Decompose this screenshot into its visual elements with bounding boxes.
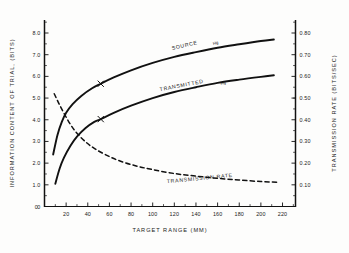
x-axis-ticks bbox=[55, 203, 293, 207]
marker-x bbox=[98, 81, 104, 87]
y2-tick-label: 0.80 bbox=[300, 30, 311, 36]
y-axis-left-tick-labels: 01.02.03.04.05.06.07.08.0 bbox=[33, 30, 41, 209]
y-tick-label: 3.0 bbox=[33, 138, 41, 144]
curve-sublabel-source-hg: Hg bbox=[212, 40, 219, 46]
y2-tick-label: 0.40 bbox=[300, 117, 311, 123]
x-tick-label: 20 bbox=[63, 211, 69, 217]
x-tick-label: 80 bbox=[128, 211, 134, 217]
y2-tick-label: 0.60 bbox=[300, 73, 311, 79]
y-tick-label: 8.0 bbox=[33, 30, 41, 36]
x-tick-label: 160 bbox=[213, 211, 222, 217]
chart-canvas: 01.02.03.04.05.06.07.08.0 0.100.200.300.… bbox=[0, 0, 349, 253]
y-tick-label: 5.0 bbox=[33, 95, 41, 101]
y-tick-label: 4.0 bbox=[33, 117, 41, 123]
y-tick-label: 6.0 bbox=[33, 73, 41, 79]
figure-container: 01.02.03.04.05.06.07.08.0 0.100.200.300.… bbox=[0, 0, 349, 253]
curve-label-source-hg: SOURCE bbox=[171, 39, 198, 51]
y2-tick-label: 0.70 bbox=[300, 52, 311, 58]
x-tick-label: 60 bbox=[106, 211, 112, 217]
x-axis-origin-label: 0 bbox=[35, 204, 38, 210]
curve-labels: SOURCEHgTRANSMITTEDHgTRANSMISSION RATE bbox=[159, 39, 233, 184]
x-tick-label: 140 bbox=[191, 211, 200, 217]
y-tick-label: 7.0 bbox=[33, 52, 41, 58]
y-axis-left-title: INFORMATION CONTENT OF TRIAL, (BITS) bbox=[9, 38, 15, 187]
x-tick-label: 200 bbox=[256, 211, 265, 217]
y2-tick-label: 0.30 bbox=[300, 138, 311, 144]
data-point-markers bbox=[98, 81, 104, 123]
data-curves bbox=[53, 40, 277, 184]
y-tick-label: 1.0 bbox=[33, 182, 41, 188]
x-tick-label: 180 bbox=[235, 211, 244, 217]
x-axis-title: TARGET RANGE (MM) bbox=[132, 227, 207, 233]
x-tick-label: 100 bbox=[148, 211, 157, 217]
y2-tick-label: 0.10 bbox=[300, 182, 311, 188]
x-tick-label: 40 bbox=[85, 211, 91, 217]
x-axis-tick-labels: 20406080100120140160180200220 bbox=[63, 211, 287, 217]
curve-transmission-rate bbox=[54, 94, 277, 182]
x-tick-label: 220 bbox=[278, 211, 287, 217]
y2-tick-label: 0.20 bbox=[300, 160, 311, 166]
y-axis-right-title: TRANSMISSION RATE (BITS/SEC) bbox=[331, 54, 337, 171]
y2-tick-label: 0.50 bbox=[300, 95, 311, 101]
y-axis-right-tick-labels: 0.100.200.300.400.500.600.700.80 bbox=[300, 30, 311, 188]
x-tick-label: 120 bbox=[170, 211, 179, 217]
curve-source-hg bbox=[53, 40, 274, 155]
y-tick-label: 2.0 bbox=[33, 160, 41, 166]
